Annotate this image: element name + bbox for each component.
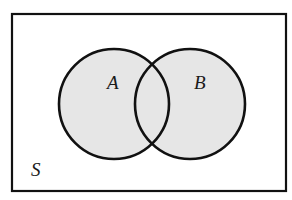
venn-diagram: A B S bbox=[0, 0, 292, 200]
set-a-label: A bbox=[105, 72, 119, 93]
set-b-label: B bbox=[194, 72, 206, 93]
universe-label: S bbox=[31, 159, 41, 180]
